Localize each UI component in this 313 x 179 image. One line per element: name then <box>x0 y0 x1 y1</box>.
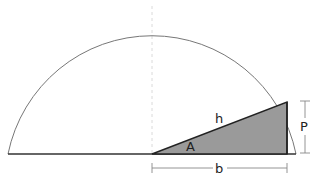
right-triangle <box>152 102 287 154</box>
hypotenuse-label: h <box>215 111 223 126</box>
angle-label: A <box>186 139 195 154</box>
base-label: b <box>215 161 223 176</box>
semicircle-triangle-diagram: h A b P <box>0 0 313 179</box>
perpendicular-label: P <box>300 119 308 134</box>
